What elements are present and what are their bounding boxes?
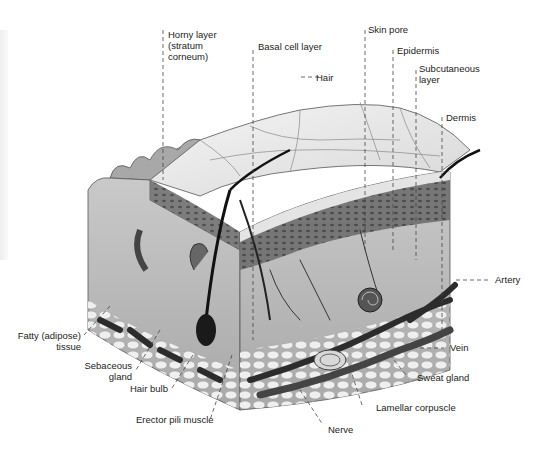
- lamellar-corpuscle: [314, 350, 346, 370]
- label-subcutaneous-layer: Subcutaneous layer: [419, 63, 480, 85]
- label-sebaceous-line1: Sebaceous: [70, 360, 132, 371]
- label-hair-bulb: Hair bulb: [108, 383, 168, 394]
- label-vein: Vein: [450, 342, 469, 353]
- label-hair: Hair: [316, 72, 333, 83]
- label-horny-layer-line1: Horny layer: [168, 29, 217, 40]
- label-sweat-gland: Sweat gland: [417, 372, 469, 383]
- label-subcutaneous-line1: Subcutaneous: [419, 63, 480, 74]
- label-artery: Artery: [495, 274, 520, 285]
- label-subcutaneous-line2: layer: [419, 74, 480, 85]
- label-epidermis: Epidermis: [397, 45, 439, 56]
- label-horny-layer: Horny layer (stratum corneum): [168, 29, 217, 62]
- label-horny-layer-line3: corneum): [168, 51, 217, 62]
- sweat-gland-coil: [358, 288, 382, 312]
- label-nerve: Nerve: [328, 424, 353, 435]
- label-fatty-tissue: Fatty (adipose) tissue: [6, 330, 81, 352]
- label-basal-cell-layer: Basal cell layer: [258, 41, 322, 52]
- label-erector-pili-muscle: Erector pili muscle: [136, 414, 214, 425]
- label-sebaceous-gland: Sebaceous gland: [70, 360, 132, 382]
- label-fatty-line1: Fatty (adipose): [6, 330, 81, 341]
- label-fatty-line2: tissue: [6, 341, 81, 352]
- label-sebaceous-line2: gland: [70, 371, 132, 382]
- label-horny-layer-line2: (stratum: [168, 40, 217, 51]
- label-lamellar-corpuscle: Lamellar corpuscle: [376, 402, 456, 413]
- label-skin-pore: Skin pore: [368, 24, 408, 35]
- label-dermis: Dermis: [446, 112, 476, 123]
